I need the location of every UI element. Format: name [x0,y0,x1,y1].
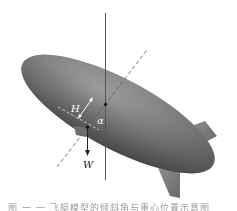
label-height: H [71,104,80,114]
figure-caption: 图 一 一 飞艇模型的倾斜角与重心位置示意图 [8,203,233,211]
center-of-buoyancy [104,103,107,106]
tail-fin-bottom [158,168,180,198]
label-weight: W [83,160,93,170]
airship-diagram: H α W 图 一 一 飞艇模型的倾斜角与重心位置示意图 [0,0,237,211]
airship-illustration [0,0,237,211]
label-angle: α [97,116,104,126]
